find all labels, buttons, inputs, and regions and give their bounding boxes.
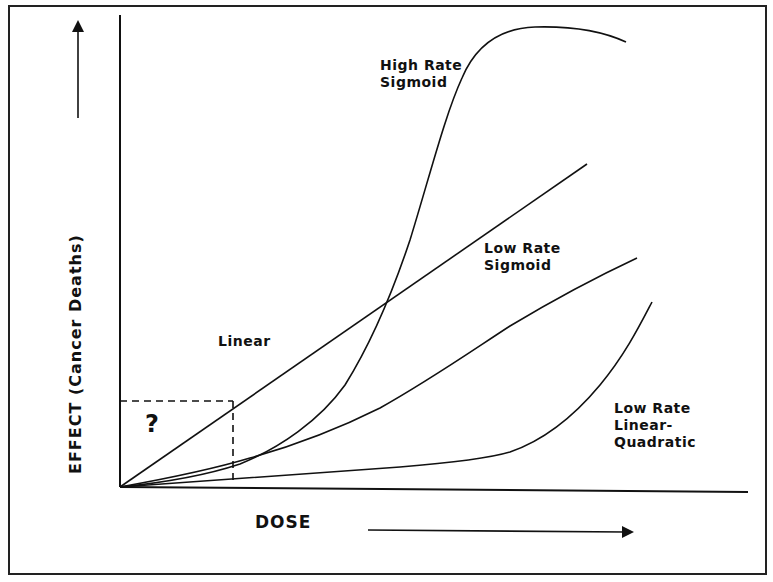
curve-low-rate-linear-quadratic <box>120 302 652 487</box>
x-axis-arrow-icon <box>368 526 634 538</box>
x-axis <box>120 487 748 492</box>
label-linear: Linear <box>218 333 271 350</box>
x-axis-label: DOSE <box>255 512 311 532</box>
curve-low-rate-sigmoid <box>120 258 637 487</box>
label-low-rate-sigmoid: Low Rate Sigmoid <box>484 240 561 274</box>
label-low-rate-linear-quadratic: Low Rate Linear- Quadratic <box>614 400 696 451</box>
y-axis-arrow-icon <box>72 20 84 118</box>
curve-linear <box>120 164 587 487</box>
y-axis-label: EFFECT (Cancer Deaths) <box>66 234 85 474</box>
label-high-rate-sigmoid: High Rate Sigmoid <box>380 57 462 91</box>
unknown-region-label: ? <box>145 410 159 438</box>
